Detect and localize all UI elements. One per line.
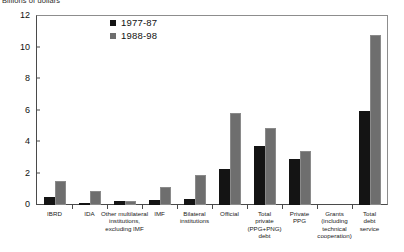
bar-group: [323, 16, 347, 205]
bar: [219, 169, 230, 205]
bar: [289, 159, 300, 205]
bar-group: [253, 16, 277, 205]
bar-group: [78, 16, 102, 205]
x-tick-label-line: excluding IMF: [95, 225, 154, 232]
x-tick-label: Totaldebtservice: [340, 210, 399, 232]
x-tick-label-line: Total: [340, 210, 399, 217]
y-tick-mark: [36, 141, 40, 142]
y-tick-label: 4: [25, 137, 30, 146]
y-axis-tick-labels: 024681012: [0, 15, 32, 205]
y-tick-mark: [36, 78, 40, 79]
legend-swatch-icon: [110, 20, 116, 26]
bar: [359, 111, 370, 206]
bar: [300, 151, 311, 205]
bar: [44, 197, 55, 205]
bar-group: [113, 16, 137, 205]
bar: [230, 113, 241, 205]
bar: [254, 146, 265, 205]
x-tick-mark: [282, 205, 283, 209]
legend: 1977-871988-98: [110, 16, 157, 42]
bar-group: [218, 16, 242, 205]
y-tick-mark: [36, 109, 40, 110]
legend-label: 1977-87: [121, 17, 157, 28]
bar-group: [288, 16, 312, 205]
x-axis-ticks: [37, 205, 387, 209]
x-tick-label-line: debt: [235, 232, 294, 239]
y-tick-label: 12: [20, 11, 30, 20]
x-tick-mark: [212, 205, 213, 209]
x-tick-mark: [72, 205, 73, 209]
x-tick-mark: [247, 205, 248, 209]
y-tick-mark: [36, 172, 40, 173]
x-tick-label-line: cooperation): [305, 232, 364, 239]
bar-group: [358, 16, 382, 205]
x-tick-mark: [107, 205, 108, 209]
bar-group: [43, 16, 67, 205]
bar: [265, 128, 276, 205]
y-tick-mark: [36, 46, 40, 47]
legend-item: 1988-98: [110, 29, 157, 42]
legend-item: 1977-87: [110, 16, 157, 29]
y-tick-label: 10: [20, 42, 30, 51]
y-axis-title: Billions of dollars: [2, 0, 60, 5]
bar: [160, 187, 171, 205]
bar: [195, 175, 206, 205]
x-tick-mark: [317, 205, 318, 209]
x-tick-label-line: debt: [340, 217, 399, 224]
bar: [55, 181, 66, 205]
bar-chart: Billions of dollars 024681012 IBRDIDAOth…: [0, 0, 404, 252]
x-tick-label-line: (PPG+PNG): [235, 225, 294, 232]
y-tick-label: 0: [25, 200, 30, 209]
legend-label: 1988-98: [121, 30, 157, 41]
y-tick-label: 2: [25, 168, 30, 177]
bar: [90, 191, 101, 205]
x-axis-tick-labels: IBRDIDAOther multilateralinstitutions,ex…: [37, 210, 387, 252]
bar-group: [148, 16, 172, 205]
x-tick-label-line: institutions: [165, 217, 224, 224]
bar-group: [183, 16, 207, 205]
x-tick-label-line: institutions,: [95, 217, 154, 224]
x-tick-label-line: service: [340, 225, 399, 232]
y-tick-label: 8: [25, 74, 30, 83]
legend-swatch-icon: [110, 33, 116, 39]
x-tick-mark: [142, 205, 143, 209]
bar: [370, 35, 381, 205]
x-tick-mark: [177, 205, 178, 209]
bars-layer: [37, 16, 387, 205]
y-tick-label: 6: [25, 105, 30, 114]
x-tick-mark: [352, 205, 353, 209]
